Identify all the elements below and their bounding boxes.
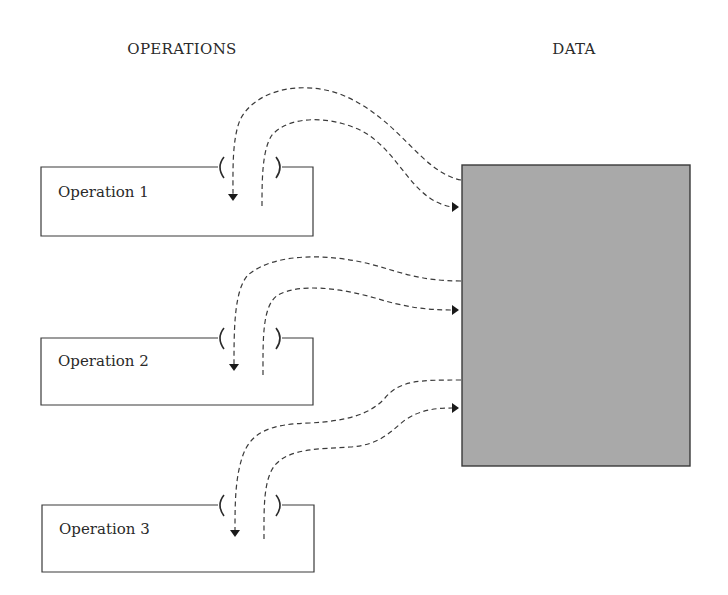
diagram-canvas [0, 0, 728, 595]
arrow-down-icon [228, 194, 238, 201]
arrow-right-icon [452, 305, 459, 315]
arrow-right-icon [452, 202, 459, 212]
close-paren-icon [276, 328, 280, 349]
arrow-down-icon [230, 530, 240, 537]
read-flow-3 [235, 380, 461, 531]
open-paren-icon [220, 495, 224, 516]
close-paren-icon [276, 157, 280, 178]
operation-2-label: Operation 2 [58, 352, 149, 370]
arrow-down-icon [229, 364, 239, 371]
write-flow-1 [262, 120, 452, 207]
open-paren-icon [220, 157, 224, 178]
close-paren-icon [276, 495, 280, 516]
operation-3-label: Operation 3 [59, 520, 150, 538]
write-flow-2 [263, 288, 452, 375]
arrow-right-icon [452, 403, 459, 413]
data-store-box [462, 165, 690, 466]
read-flow-1 [233, 88, 461, 195]
write-flow-3 [264, 408, 452, 539]
operation-1-label: Operation 1 [58, 183, 149, 201]
open-paren-icon [220, 328, 224, 349]
